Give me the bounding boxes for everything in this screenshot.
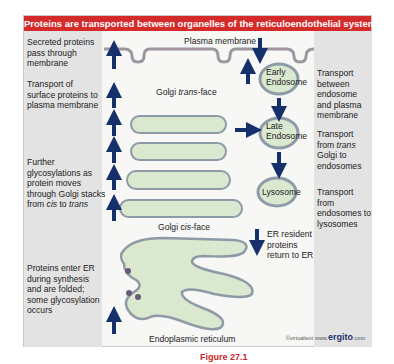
annotation-er-entry: Proteins enter ER during synthesis and a… — [27, 263, 101, 316]
endoplasmic-reticulum — [121, 238, 252, 329]
ribosome — [126, 290, 132, 296]
label-endoplasmic-reticulum: Endoplasmic reticulum — [149, 334, 235, 344]
golgi-cisterna-4 — [120, 200, 242, 217]
copyright-credit: ©virtualtext www.ergito.com — [286, 332, 365, 342]
label-late-endosome: LateEndosome — [266, 122, 307, 141]
label-er-return: ER resident proteins return to ER — [267, 229, 315, 261]
golgi-cisterna-2 — [131, 143, 226, 160]
ribosome — [135, 294, 141, 300]
plasma-membrane — [104, 49, 314, 62]
annotation-surface-proteins: Transport of surface proteins to plasma … — [27, 79, 103, 111]
annotation-endosome-lysosome: Transport from endosomes to lysosomes — [317, 187, 373, 229]
golgi-cisterna-3 — [127, 171, 230, 189]
figure-caption: Figure 27.1 — [200, 352, 248, 362]
ribosome — [125, 268, 131, 274]
annotation-golgi-glycosylation: Further glycosylations as protein moves … — [27, 157, 107, 210]
golgi-cisterna-1 — [131, 116, 226, 133]
annotation-secreted-proteins: Secreted proteins pass through membrane — [27, 37, 101, 69]
annotation-golgi-endosome: Transport from trans Golgi to endosomes — [317, 129, 373, 171]
label-lysosome: Lysosome — [262, 187, 301, 197]
annotation-endosome-plasma: Transport between endosome and plasma me… — [317, 68, 373, 121]
figure-panel: Proteins are transported between organel… — [23, 15, 372, 347]
label-golgi-trans-face: Golgi trans-face — [156, 87, 217, 97]
label-early-endosome: EarlyEndosome — [266, 68, 307, 87]
label-plasma-membrane: Plasma membrane — [184, 36, 256, 46]
label-golgi-cis-face: Golgi cis-face — [158, 222, 210, 232]
